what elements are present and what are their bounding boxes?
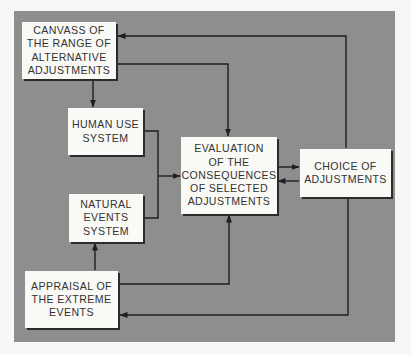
node-human-use-system: HUMAN USE SYSTEM — [68, 108, 143, 155]
node-canvass-alternatives: CANVASS OF THE RANGE OF ALTERNATIVE ADJU… — [22, 22, 116, 79]
node-natural-events-system: NATURAL EVENTS SYSTEM — [69, 194, 143, 242]
arrow-choice-to-appraisal — [120, 198, 348, 315]
node-choice-of-adjustments: CHOICE OF ADJUSTMENTS — [300, 149, 391, 197]
node-appraisal-extreme-events: APPRAISAL OF THE EXTREME EVENTS — [25, 271, 118, 328]
line-human-use-out — [144, 131, 158, 218]
node-evaluation-consequences: EVALUATION OF THE CONSEQUENCES OF SELECT… — [181, 137, 277, 214]
